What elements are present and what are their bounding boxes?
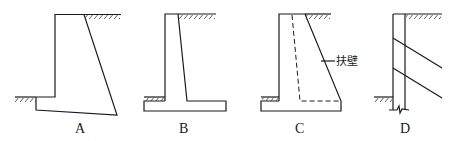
toe-hatch: [262, 98, 278, 102]
panel-label-d: D: [400, 121, 410, 136]
panel-a-gravity-wall: A: [15, 15, 121, 137]
panel-c-counterfort-wall: 扶壁 C: [261, 14, 358, 136]
break-symbol: [389, 106, 409, 113]
backfill-hatch: [306, 15, 330, 19]
retaining-walls-diagram: A B 扶壁 C D: [0, 0, 458, 141]
backfill-hatch: [179, 15, 215, 19]
backfill-hatch: [85, 15, 120, 19]
panel-label-a: A: [75, 121, 86, 136]
panel-label-b: B: [179, 121, 188, 136]
panel-label-c: C: [295, 121, 304, 136]
counterfort-label: 扶壁: [336, 54, 358, 68]
anchor-1: [393, 38, 442, 68]
toe-hatch: [145, 98, 164, 102]
backfill-hatch: [406, 15, 441, 19]
panel-b-cantilever-wall: B: [144, 14, 226, 136]
panel-d-anchored-wall: D: [374, 14, 442, 136]
ground-hatch: [375, 98, 392, 102]
counterfort-outline: [292, 15, 341, 101]
anchor-2: [393, 68, 442, 98]
ground-hatch: [15, 98, 36, 102]
